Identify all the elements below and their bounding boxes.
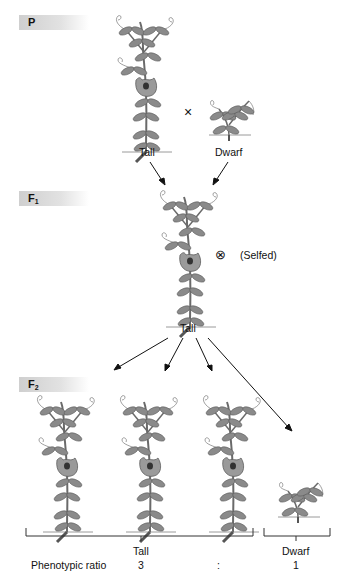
p-tall-label: Tall <box>139 146 155 158</box>
arrow-dwarf-to-f1 <box>213 162 228 185</box>
arrows-f1-to-f2 <box>114 338 292 431</box>
selfed-icon: ⊗ <box>215 247 226 262</box>
arrow-tall-to-f1 <box>150 162 165 185</box>
diagram-artwork <box>0 0 346 582</box>
f2-tall-plant-3 <box>203 396 260 542</box>
p-tall-plant <box>116 16 173 162</box>
f1-tall-label: Tall <box>180 322 196 334</box>
ratio-tall-value: 3 <box>138 559 144 571</box>
selfed-label: (Selfed) <box>240 249 277 261</box>
ratio-dwarf-value: 1 <box>293 559 299 571</box>
generation-bar-f1: F1 <box>19 191 89 206</box>
f2-tall-plant-1 <box>37 396 94 542</box>
phenotypic-ratio-label: Phenotypic ratio <box>31 559 106 571</box>
f2-tall-plant-2 <box>120 396 177 542</box>
p-dwarf-plant <box>209 100 255 141</box>
generation-bar-f2: F2 <box>19 377 89 392</box>
cross-symbol: × <box>184 104 192 120</box>
f2-dwarf-group-label: Dwarf <box>282 545 309 557</box>
generation-label-f1: F1 <box>28 192 39 205</box>
f2-dwarf-plant <box>278 482 324 523</box>
dwarf-bracket <box>264 528 330 541</box>
ratio-separator: : <box>217 559 220 571</box>
p-dwarf-label: Dwarf <box>215 146 242 158</box>
generation-label-f2: F2 <box>28 378 39 391</box>
f2-tall-group-label: Tall <box>133 545 149 557</box>
f1-tall-plant <box>160 191 217 337</box>
